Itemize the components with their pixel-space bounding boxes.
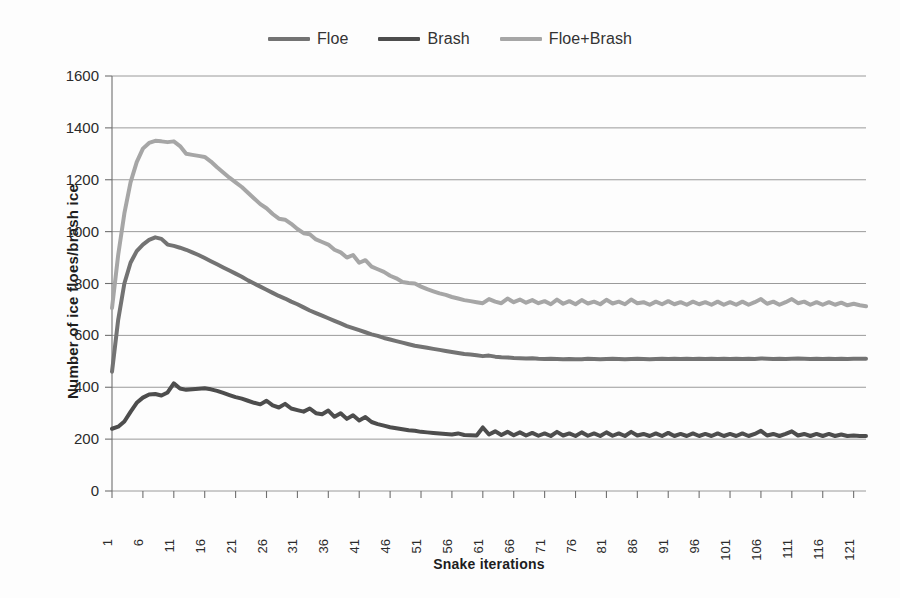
- y-axis-ticks: 16001400120010008006004002000: [66, 67, 112, 499]
- x-tick-label: 111: [780, 539, 795, 559]
- x-tick-label: 121: [842, 539, 857, 561]
- x-tick-label: 31: [285, 539, 300, 553]
- x-tick-label: 116: [811, 539, 826, 560]
- x-tick-label: 76: [564, 539, 579, 553]
- x-tick-label: 26: [255, 539, 270, 553]
- x-tick-label: 81: [594, 539, 609, 553]
- chart-figure: Floe Brash Floe+Brash Number of ice floe…: [0, 0, 900, 598]
- x-tick-label: 106: [749, 539, 764, 561]
- x-tick-label: 61: [471, 539, 486, 553]
- x-tick-label: 56: [440, 539, 455, 553]
- y-tick-label: 1200: [66, 171, 99, 188]
- x-tick-label: 96: [687, 539, 702, 553]
- x-tick-label: 71: [533, 539, 548, 553]
- x-tick-label: 1: [100, 539, 115, 546]
- x-tick-label: 86: [625, 539, 640, 553]
- x-tick-label: 41: [347, 539, 362, 553]
- y-tick-label: 1600: [66, 67, 99, 84]
- x-tick-label: 36: [316, 539, 331, 553]
- y-tick-label: 400: [74, 378, 99, 395]
- plot-svg: 16001400120010008006004002000 1611162126…: [0, 0, 900, 598]
- x-axis-ticks: 1611162126313641465156616671768186919610…: [100, 491, 857, 561]
- data-series: [112, 141, 866, 436]
- x-tick-label: 66: [502, 539, 517, 553]
- x-tick-label: 16: [193, 539, 208, 553]
- y-tick-label: 800: [74, 275, 99, 292]
- x-tick-label: 51: [409, 539, 424, 553]
- x-tick-label: 46: [378, 539, 393, 553]
- x-tick-label: 11: [162, 539, 177, 553]
- y-tick-label: 1000: [66, 223, 99, 240]
- y-tick-label: 600: [74, 326, 99, 343]
- gridlines: [112, 76, 866, 491]
- x-tick-label: 101: [718, 539, 733, 561]
- series-line-brash: [112, 383, 866, 436]
- plot-area: 16001400120010008006004002000 1611162126…: [0, 0, 900, 598]
- series-line-floe-plus-brash: [112, 141, 866, 308]
- y-tick-label: 0: [91, 482, 99, 499]
- x-tick-label: 91: [656, 539, 671, 553]
- x-tick-label: 21: [224, 539, 239, 553]
- y-tick-label: 1400: [66, 119, 99, 136]
- x-tick-label: 6: [131, 539, 146, 546]
- y-tick-label: 200: [74, 430, 99, 447]
